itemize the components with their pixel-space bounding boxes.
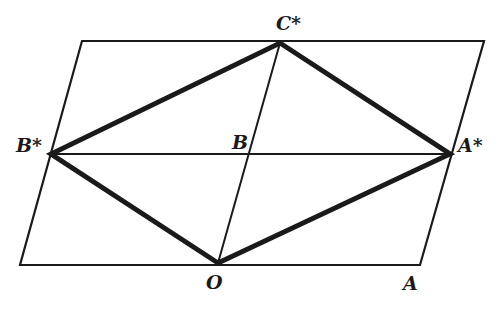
label-b: B	[232, 133, 248, 152]
label-a-star: A*	[458, 136, 483, 155]
label-o: O	[206, 273, 223, 292]
lattice-figure	[0, 0, 497, 311]
label-a: A	[403, 274, 418, 293]
diagram-canvas: C* B* B A* O A	[0, 0, 497, 311]
label-c-star: C*	[276, 14, 301, 33]
label-b-star: B*	[16, 136, 42, 155]
